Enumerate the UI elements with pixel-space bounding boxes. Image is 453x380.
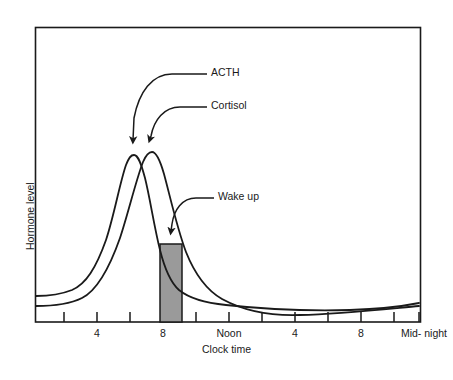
cortisol-annotation-label: Cortisol <box>211 100 247 112</box>
acth-annotation-label: ACTH <box>211 67 240 79</box>
wake-up-annotation-label: Wake up <box>218 191 259 203</box>
x-tick-label-8pm: 8 <box>331 327 391 339</box>
x-tick-label-midnight: Mid- night <box>394 327 453 339</box>
y-axis-label: Hormone level <box>25 182 37 250</box>
chart-figure: Hormone level Clock time 4 8 Noon 4 8 Mi… <box>0 0 453 380</box>
wake-up-bar <box>160 244 182 322</box>
x-tick-label-4pm: 4 <box>265 327 325 339</box>
x-tick-label-8am: 8 <box>133 327 193 339</box>
x-axis-label: Clock time <box>0 344 453 356</box>
x-tick-label-4am: 4 <box>67 327 127 339</box>
x-tick-label-noon: Noon <box>199 327 259 339</box>
